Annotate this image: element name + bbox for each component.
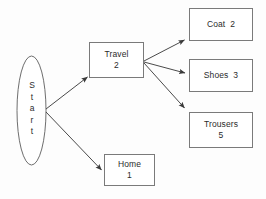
edge-start-to-travel [46, 77, 88, 109]
node-shoes-label: Shoes 3 [204, 70, 238, 81]
node-home[interactable]: Home 1 [104, 154, 155, 186]
node-home-name: Home [118, 159, 141, 170]
node-home-count: 1 [127, 170, 132, 181]
node-coat-label: Coat 2 [207, 19, 235, 30]
node-trousers-count: 5 [219, 130, 224, 141]
node-travel-name: Travel [105, 49, 129, 60]
edge-start-to-home [46, 112, 102, 170]
node-travel[interactable]: Travel 2 [89, 42, 144, 78]
start-node-label: S t a r t [17, 80, 47, 138]
node-shoes[interactable]: Shoes 3 [189, 59, 253, 92]
edge-travel-to-trousers [144, 63, 185, 108]
start-letter-3: a [17, 103, 47, 115]
diagram-canvas: S t a r t Travel 2 Home 1 Coat 2 Shoes 3… [0, 0, 266, 199]
node-travel-count: 2 [114, 60, 119, 71]
start-letter-4: r [17, 115, 47, 127]
start-letter-1: S [17, 80, 47, 92]
start-letter-5: t [17, 126, 47, 138]
node-trousers-name: Trousers [204, 119, 238, 130]
edge-travel-to-shoes [144, 62, 185, 73]
start-letter-2: t [17, 92, 47, 104]
node-coat[interactable]: Coat 2 [189, 8, 253, 41]
node-trousers[interactable]: Trousers 5 [189, 112, 253, 148]
edge-travel-to-coat [144, 40, 185, 61]
